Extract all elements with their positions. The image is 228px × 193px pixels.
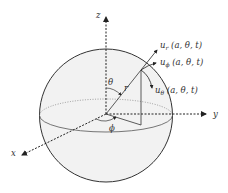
phi-label: ϕ xyxy=(109,123,115,133)
theta-label: θ xyxy=(108,77,113,87)
x-axis-label: x xyxy=(11,148,16,158)
u-r-label: ur (a, θ, t) xyxy=(160,40,202,51)
u-phi-label: uϕ (a, θ, t) xyxy=(160,57,203,69)
spherical-coordinates-diagram: z y x θ ϕ r ur (a, θ, t) uϕ (a, θ, t) uθ… xyxy=(0,0,228,193)
y-axis-label: y xyxy=(212,109,218,119)
z-axis-label: z xyxy=(95,10,101,20)
sphere xyxy=(40,49,173,182)
